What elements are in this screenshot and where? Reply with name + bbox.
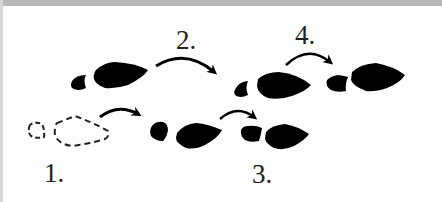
footstep-diagram: 1. 2. 3. 4.: [0, 0, 442, 202]
arrow-step-2: [156, 58, 214, 72]
arrow-step-3: [220, 111, 254, 119]
footprint-upper-middle: [234, 72, 311, 99]
footprint-lower-middle: [150, 122, 222, 149]
footprint-upper-right: [327, 63, 406, 92]
footprint-step-1-dashed: [29, 116, 109, 146]
step-label-1: 1.: [44, 160, 64, 187]
step-label-2: 2.: [176, 27, 196, 54]
footprint-diagram-canvas: [0, 0, 442, 202]
step-label-4: 4.: [295, 22, 315, 49]
step-label-3: 3.: [252, 161, 272, 188]
arrow-step-4: [286, 54, 330, 65]
footprint-upper-left: [71, 62, 148, 90]
arrow-step-1: [100, 109, 138, 117]
footprint-lower-right: [241, 124, 309, 149]
